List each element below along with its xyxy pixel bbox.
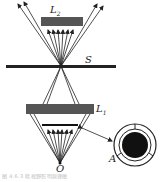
- label-l2-sub: 2: [57, 10, 61, 17]
- lens-l2: [41, 17, 83, 26]
- label-l2-main: L: [50, 4, 57, 15]
- label-s: S: [85, 55, 92, 65]
- label-a: A: [109, 154, 116, 164]
- converging-rays: [43, 66, 79, 104]
- leader-line: [82, 128, 112, 141]
- collected-rays: [48, 30, 73, 66]
- figure-caption: 图 4.6.3 暗视野照明原理图: [2, 172, 160, 179]
- optics-diagram: [0, 0, 162, 182]
- label-l1-sub: 1: [103, 109, 107, 116]
- source-rays: [30, 114, 90, 163]
- label-l1: L1: [96, 104, 106, 116]
- label-l1-main: L: [96, 103, 103, 114]
- label-l2: L2: [50, 5, 60, 17]
- lens-l1: [26, 104, 94, 114]
- annular-stop-detail: [114, 124, 156, 166]
- annular-stop-bar: [42, 124, 78, 126]
